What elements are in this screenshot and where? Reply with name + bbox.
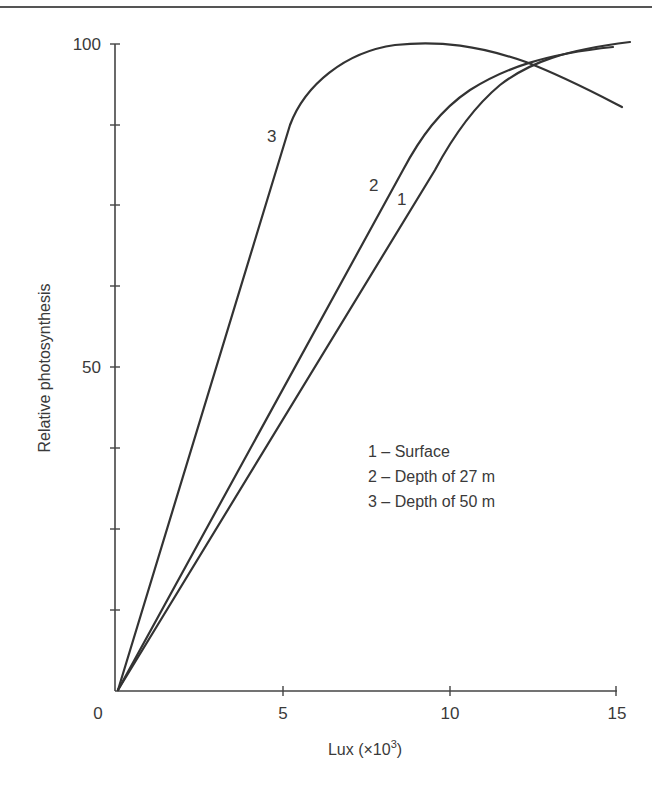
y-tick-label-100: 100 bbox=[73, 35, 101, 54]
x-axis-title: Lux (×103) bbox=[328, 738, 402, 758]
legend-item-depth-50m: 3 – Depth of 50 m bbox=[368, 489, 495, 514]
chart-canvas: 100 50 0 5 10 15 Relative photosynthesis… bbox=[0, 0, 652, 793]
curve-2-depth-27m bbox=[118, 47, 613, 690]
x-tick-label-10: 10 bbox=[441, 704, 460, 723]
curve-3-label: 3 bbox=[267, 127, 276, 146]
curve-1-surface bbox=[118, 42, 630, 690]
curve-1-label: 1 bbox=[397, 190, 406, 209]
y-axis-title: Relative photosynthesis bbox=[36, 284, 53, 453]
legend-item-surface: 1 – Surface bbox=[368, 439, 495, 464]
x-tick-label-5: 5 bbox=[278, 704, 287, 723]
x-tick-label-15: 15 bbox=[608, 704, 627, 723]
y-tick-label-50: 50 bbox=[82, 358, 101, 377]
curve-3-depth-50m bbox=[118, 43, 622, 690]
x-tick-label-0: 0 bbox=[93, 704, 102, 723]
legend-item-depth-27m: 2 – Depth of 27 m bbox=[368, 464, 495, 489]
legend: 1 – Surface 2 – Depth of 27 m 3 – Depth … bbox=[368, 439, 495, 514]
curve-2-label: 2 bbox=[369, 176, 378, 195]
